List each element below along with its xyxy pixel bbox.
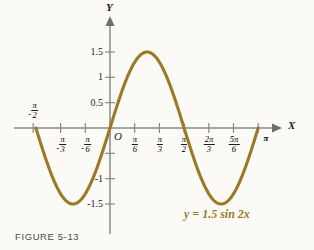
y-tick-label-neg-1: -1 — [79, 174, 103, 184]
fraction: π2 — [32, 101, 38, 120]
fraction: π6 — [85, 135, 91, 154]
fraction: π3 — [60, 135, 66, 154]
equation-annotation: y = 1.5 sin 2x — [184, 207, 250, 222]
plot-svg — [0, 0, 314, 250]
x-tick-label-pi-over-2: π2 — [181, 135, 187, 156]
y-tick-label-1.5: 1.5 — [79, 47, 103, 57]
fraction: π2 — [181, 135, 187, 154]
y-tick-label-neg-1.5: -1.5 — [79, 199, 103, 209]
fraction: 2π3 — [204, 135, 215, 154]
x-tick-label-neg-pi-over-2: -π2 — [28, 101, 38, 122]
x-axis-label: X — [288, 120, 295, 131]
x-tick-label-pi: π — [264, 133, 269, 143]
x-tick-label-pi-over-6: π6 — [132, 135, 138, 156]
x-tick-label-neg-pi-over-6: -π6 — [81, 135, 91, 156]
figure-caption: FIGURE 5-13 — [15, 231, 79, 242]
fraction: 5π6 — [229, 135, 240, 154]
figure-container: Y X O 1.5 1 0.5 -1 -1.5 -π2 -π3 -π6 π6 π… — [0, 0, 314, 250]
fraction: π3 — [157, 135, 163, 154]
y-tick-label-1: 1 — [79, 72, 103, 82]
y-axis-label: Y — [106, 2, 113, 13]
x-axis-arrow — [272, 124, 282, 133]
y-tick-label-0.5: 0.5 — [79, 98, 103, 108]
origin-label: O — [114, 131, 122, 142]
x-tick-label-2pi-over-3: 2π3 — [204, 135, 215, 156]
x-tick-label-pi-over-3: π3 — [157, 135, 163, 156]
y-axis-arrow — [106, 16, 115, 26]
fraction: π6 — [132, 135, 138, 154]
x-tick-label-neg-pi-over-3: -π3 — [56, 135, 66, 156]
x-tick-label-5pi-over-6: 5π6 — [229, 135, 240, 156]
